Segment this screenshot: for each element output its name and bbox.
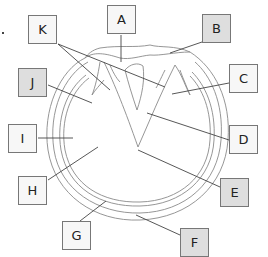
label-e: E — [220, 178, 249, 207]
label-a: A — [107, 5, 136, 34]
label-j: J — [18, 68, 47, 97]
label-c: C — [229, 64, 258, 93]
label-k: K — [28, 15, 57, 44]
label-b: B — [202, 14, 231, 43]
label-i: I — [8, 124, 37, 153]
label-d: D — [229, 125, 258, 154]
label-f: F — [180, 228, 209, 257]
label-g: G — [62, 221, 91, 250]
label-h: H — [18, 176, 47, 205]
